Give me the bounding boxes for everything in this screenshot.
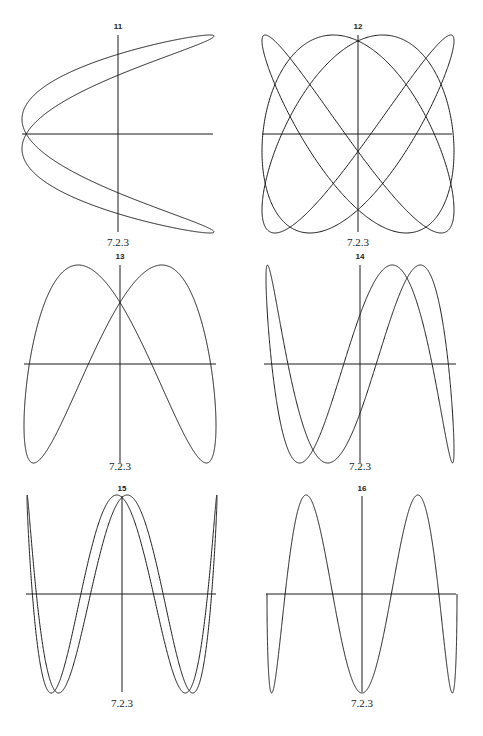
figure-page: 117.2.3127.2.3137.2.3147.2.3157.2.3167.2… <box>0 0 483 736</box>
panel-caption: 7.2.3 <box>349 460 372 472</box>
panel-number-label: 11 <box>114 22 123 31</box>
lissajous-panel-14: 147.2.3 <box>264 252 456 472</box>
panel-caption: 7.2.3 <box>351 697 374 709</box>
panel-number-label: 14 <box>356 252 365 261</box>
panel-number-label: 15 <box>118 484 127 493</box>
figure-panels: 117.2.3127.2.3137.2.3147.2.3157.2.3167.2… <box>22 22 457 709</box>
lissajous-panel-15: 157.2.3 <box>26 484 217 709</box>
lissajous-panel-12: 127.2.3 <box>262 22 454 248</box>
lissajous-panel-13: 137.2.3 <box>24 252 216 472</box>
panel-caption: 7.2.3 <box>111 697 134 709</box>
panel-number-label: 12 <box>354 22 363 31</box>
panel-number-label: 13 <box>116 252 125 261</box>
panel-caption: 7.2.3 <box>109 460 132 472</box>
lissajous-panel-11: 117.2.3 <box>22 22 214 248</box>
panel-caption: 7.2.3 <box>107 236 130 248</box>
panel-caption: 7.2.3 <box>347 236 370 248</box>
lissajous-panel-16: 167.2.3 <box>266 484 457 709</box>
panel-number-label: 16 <box>358 484 367 493</box>
